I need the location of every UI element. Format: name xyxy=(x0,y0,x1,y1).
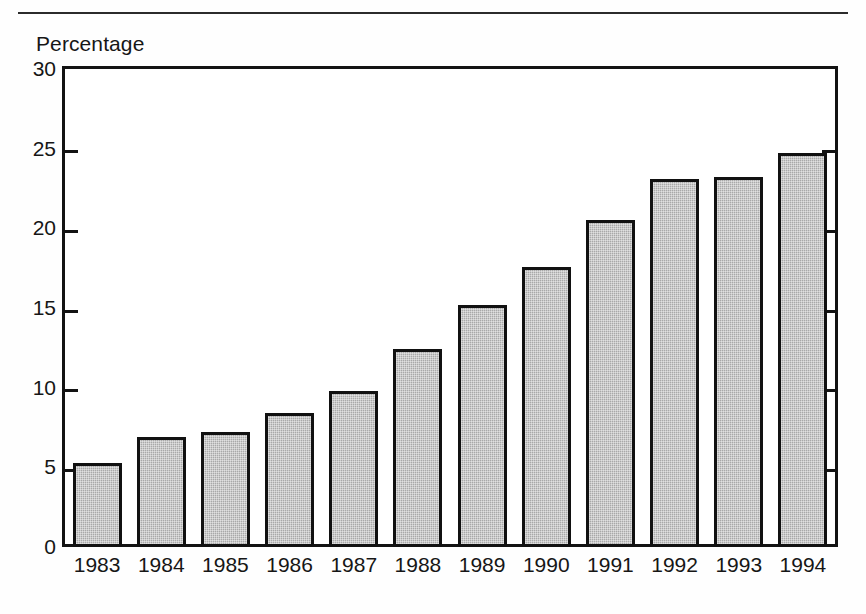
bar xyxy=(393,349,442,547)
bar xyxy=(265,413,314,547)
x-tick-label: 1984 xyxy=(129,553,193,577)
x-tick-label: 1992 xyxy=(643,553,707,577)
bar xyxy=(137,437,186,547)
y-tick-label: 20 xyxy=(10,216,56,240)
x-tick-label: 1990 xyxy=(514,553,578,577)
bar xyxy=(778,153,827,547)
x-tick-label: 1986 xyxy=(258,553,322,577)
x-tick-label: 1989 xyxy=(450,553,514,577)
x-tick-label: 1985 xyxy=(193,553,257,577)
bar xyxy=(329,391,378,547)
x-tick-label: 1994 xyxy=(771,553,835,577)
x-tick-label: 1987 xyxy=(322,553,386,577)
bar xyxy=(458,305,507,547)
plot-area xyxy=(65,69,835,547)
x-tick-label: 1991 xyxy=(578,553,642,577)
y-tick-label: 15 xyxy=(10,296,56,320)
bar xyxy=(201,432,250,547)
y-tick-label: 10 xyxy=(10,376,56,400)
y-tick-label: 25 xyxy=(10,137,56,161)
y-tick-label: 0 xyxy=(10,535,56,559)
bar xyxy=(586,220,635,547)
x-tick-label: 1988 xyxy=(386,553,450,577)
y-tick-label: 30 xyxy=(10,57,56,81)
bar xyxy=(650,179,699,547)
y-tick-label: 5 xyxy=(10,455,56,479)
bar xyxy=(73,463,122,547)
top-horizontal-rule xyxy=(18,12,848,14)
y-axis-tick-labels: 051015202530 xyxy=(6,0,56,614)
bar xyxy=(714,177,763,547)
bar xyxy=(522,267,571,547)
chart-page: Percentage 051015202530 1983198419851986… xyxy=(0,0,866,614)
x-tick-label: 1993 xyxy=(707,553,771,577)
x-tick-label: 1983 xyxy=(65,553,129,577)
